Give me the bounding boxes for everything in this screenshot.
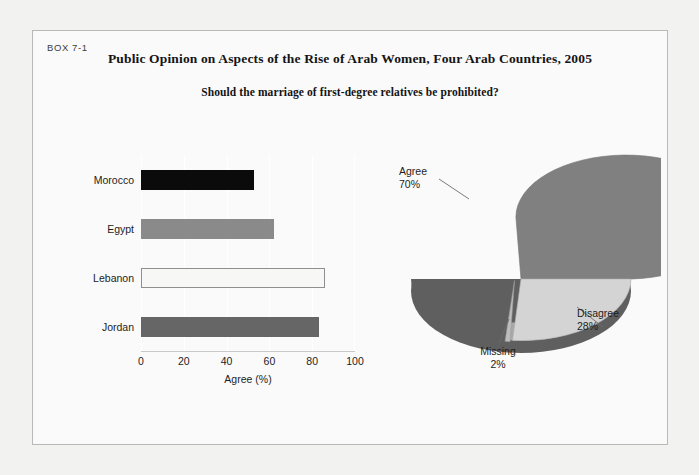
- bar-row: Jordan: [141, 302, 355, 351]
- x-tick-100: 100: [346, 355, 364, 367]
- bar-row: Morocco: [141, 155, 355, 204]
- x-tick-60: 60: [264, 355, 276, 367]
- bar-row: Egypt: [141, 204, 355, 253]
- bar-chart: Morocco Egypt Lebanon Jordan 0 20 40 60 …: [53, 149, 363, 409]
- bar-lebanon: [141, 268, 325, 288]
- bar-morocco: [141, 170, 254, 190]
- bar-category-label: Egypt: [107, 223, 134, 235]
- bar-egypt: [141, 219, 274, 239]
- bar-plot-area: Morocco Egypt Lebanon Jordan: [141, 155, 355, 351]
- pie-label-agree: Agree 70%: [399, 165, 427, 191]
- x-tick-80: 80: [306, 355, 318, 367]
- bar-row: Lebanon: [141, 253, 355, 302]
- bar-jordan: [141, 317, 319, 337]
- pie-label-disagree-text: Disagree: [577, 307, 619, 320]
- pie-label-disagree: Disagree 28%: [577, 307, 619, 333]
- leader-line-agree: [439, 179, 469, 199]
- pie-label-disagree-value: 28%: [577, 320, 619, 333]
- figure-title: Public Opinion on Aspects of the Rise of…: [33, 51, 667, 67]
- pie-label-missing-text: Missing: [465, 345, 531, 358]
- bar-category-label: Morocco: [94, 174, 134, 186]
- pie-label-missing: Missing 2%: [465, 345, 531, 371]
- figure-subtitle: Should the marriage of first-degree rela…: [33, 86, 667, 98]
- x-tick-20: 20: [178, 355, 190, 367]
- x-axis-label: Agree (%): [141, 373, 355, 385]
- x-axis-line: [141, 351, 355, 352]
- x-tick-0: 0: [138, 355, 144, 367]
- pie-label-agree-value: 70%: [399, 178, 427, 191]
- bar-category-label: Lebanon: [93, 272, 134, 284]
- pie-chart: Agree 70% Disagree 28% Missing 2%: [381, 139, 661, 409]
- figure-box: BOX 7-1 Public Opinion on Aspects of the…: [32, 30, 668, 445]
- pie-label-agree-text: Agree: [399, 165, 427, 178]
- bar-category-label: Jordan: [102, 321, 134, 333]
- x-tick-40: 40: [221, 355, 233, 367]
- pie-label-missing-value: 2%: [465, 358, 531, 371]
- pie-slice-agree: [516, 155, 661, 279]
